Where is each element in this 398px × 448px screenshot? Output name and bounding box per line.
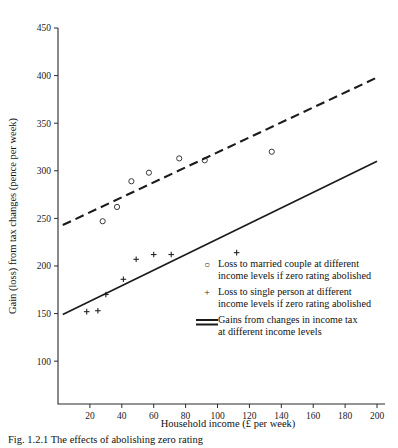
legend-item-label: Loss to married couple at different inco… <box>218 258 371 281</box>
legend-item-label: Gains from changes in income tax at diff… <box>218 314 357 337</box>
x-axis-tick-label: 40 <box>117 411 127 421</box>
data-point-circle <box>129 179 134 184</box>
y-axis-tick-label: 100 <box>37 357 52 367</box>
figure-caption: Fig. 1.2.1 The effects of abolishing zer… <box>8 434 203 446</box>
legend-line-2: at different income levels <box>218 326 322 337</box>
line-swatch-icon <box>196 314 218 327</box>
trend-line-dashed <box>63 77 377 225</box>
y-axis-title: Gain (loss) from tax changes (pence per … <box>7 117 19 314</box>
legend-item-income-tax-gains: Gains from changes in income tax at diff… <box>196 314 396 337</box>
y-axis-tick-label: 150 <box>37 309 52 319</box>
figure-container: 1001502002503003504004502040608010012014… <box>0 0 398 448</box>
data-point-circle <box>269 149 274 154</box>
legend-line-1: Gains from changes in income tax <box>218 314 357 325</box>
plus-marker-icon: + <box>196 286 218 299</box>
legend-line-2: income levels if zero rating abolished <box>218 298 371 309</box>
line-swatch-glyph <box>196 318 218 327</box>
y-axis-tick-label: 400 <box>37 71 52 81</box>
x-axis-tick-label: 60 <box>149 411 159 421</box>
legend-item-label: Loss to single person at different incom… <box>218 286 371 309</box>
chart-legend: ○ Loss to married couple at different in… <box>196 258 396 343</box>
x-axis-tick-label: 180 <box>338 411 353 421</box>
circle-marker-icon: ○ <box>196 258 218 271</box>
y-axis-tick-label: 350 <box>37 119 52 129</box>
x-axis-tick-label: 200 <box>370 411 385 421</box>
legend-item-married-couple: ○ Loss to married couple at different in… <box>196 258 396 281</box>
chart-plot-area: 1001502002503003504004502040608010012014… <box>0 0 398 448</box>
data-point-circle <box>100 219 105 224</box>
y-axis-tick-label: 250 <box>37 214 52 224</box>
x-axis-title: Household income (£ per week) <box>161 418 296 430</box>
y-axis-tick-label: 450 <box>37 23 52 33</box>
data-point-circle <box>114 204 119 209</box>
axes-group: 1001502002503003504004502040608010012014… <box>37 23 385 421</box>
y-axis-tick-label: 200 <box>37 261 52 271</box>
legend-line-1: Loss to single person at different <box>218 286 352 297</box>
legend-line-1: Loss to married couple at different <box>218 258 359 269</box>
x-axis-tick-label: 160 <box>306 411 321 421</box>
data-point-circle <box>177 156 182 161</box>
data-point-circle <box>146 170 151 175</box>
legend-line-2: income levels if zero rating abolished <box>218 270 371 281</box>
y-axis-tick-label: 300 <box>37 166 52 176</box>
x-axis-tick-label: 20 <box>85 411 95 421</box>
axis-lines <box>58 28 385 404</box>
legend-item-single-person: + Loss to single person at different inc… <box>196 286 396 309</box>
